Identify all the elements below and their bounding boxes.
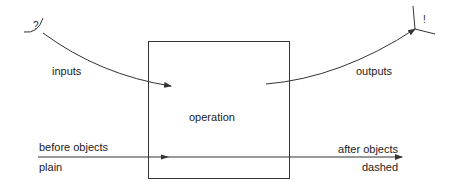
outputs-arrow (266, 29, 415, 84)
end-symbol: ! (423, 14, 426, 26)
flow-mid-arrowhead (161, 155, 169, 160)
start-symbol: ? (33, 20, 39, 32)
outputs-label: outputs (356, 65, 392, 77)
after-objects-label: after objects (338, 143, 398, 155)
inputs-arrow (43, 33, 171, 86)
diagram-canvas: ? ! inputs outputs operation before obje… (0, 0, 459, 188)
diagram-graphics (0, 0, 459, 188)
before-objects-label: before objects (39, 141, 108, 153)
inputs-label: inputs (52, 65, 81, 77)
after-style-label: dashed (362, 161, 398, 173)
operation-label: operation (189, 111, 235, 123)
operation-box (149, 42, 290, 179)
before-style-label: plain (39, 161, 62, 173)
